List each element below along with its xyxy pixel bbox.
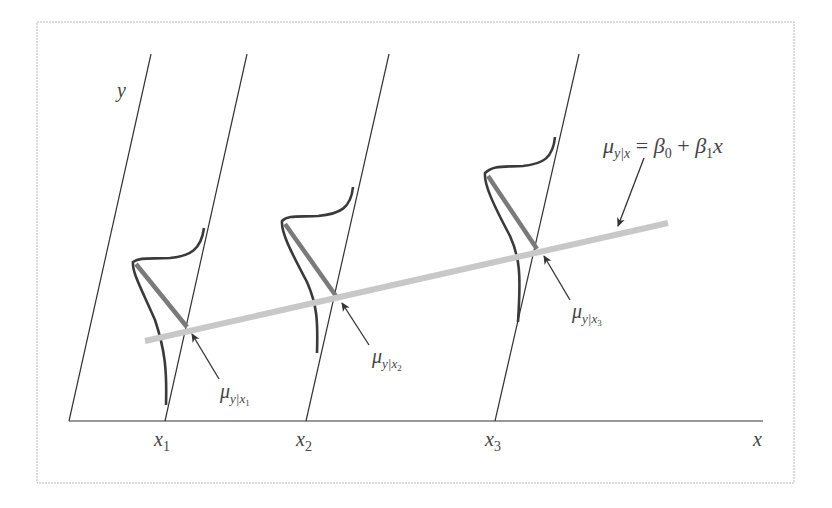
- distribution-x3: [485, 137, 555, 322]
- x3-plane-line: [495, 54, 579, 421]
- distribution-x2: [282, 187, 353, 353]
- x1-plane-line: [165, 54, 247, 421]
- normal-curve-x3: [485, 137, 555, 322]
- mean-label-x2: μy|x2: [371, 345, 402, 373]
- x-tick-label-3: x3: [484, 428, 501, 454]
- normal-curve-x1: [133, 228, 204, 405]
- arrow-mean-x2: [342, 303, 369, 345]
- arrow-regression-label: [618, 158, 644, 226]
- arrow-mean-x1: [192, 334, 219, 379]
- x-axis-label: x: [752, 428, 762, 450]
- x-tick-label-2: x2: [295, 428, 312, 454]
- mean-label-x3: μy|x3: [571, 300, 602, 328]
- mean-label-x1: μy|x1: [219, 380, 250, 408]
- y-axis-label: y: [115, 79, 126, 102]
- mean-segment-x3: [488, 176, 537, 249]
- distribution-x1: [133, 228, 204, 405]
- x-tick-label-1: x1: [153, 428, 170, 454]
- regression-equation-label: μy|x = β0 + β1x: [602, 133, 723, 161]
- mean-segment-x2: [285, 224, 336, 296]
- regression-diagram: y x x1 x2 x3 μy|x = β0 + β1x μy|x1 μy|x2…: [0, 0, 832, 508]
- arrow-mean-x3: [544, 256, 570, 300]
- figure-frame: [37, 22, 794, 483]
- y-axis-line: [69, 54, 151, 421]
